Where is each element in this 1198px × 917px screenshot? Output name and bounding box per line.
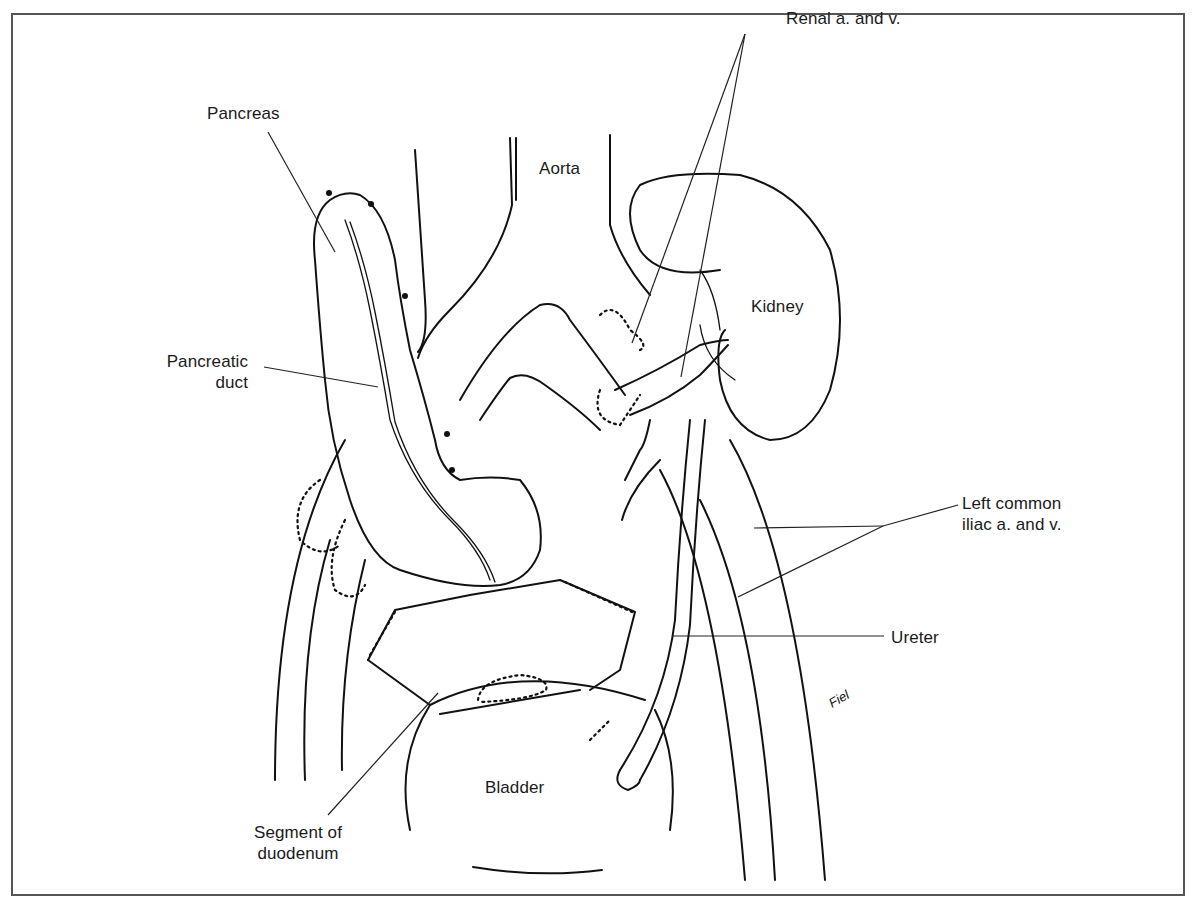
leader-pancreatic-duct [264,367,378,387]
label-left-common-iliac-line2: iliac a. and v. [962,514,1061,535]
label-kidney: Kidney [751,296,804,317]
label-renal: Renal a. and v. [786,8,901,29]
label-segment-of-duodenum-line2: duodenum [238,843,358,864]
label-pancreas: Pancreas [207,103,280,124]
bladder-drawing [406,675,673,873]
label-aorta: Aorta [539,158,580,179]
renal-vessel-drawing [460,304,625,430]
leader-renal [632,34,745,343]
leader-iliac-a [754,526,883,528]
label-left-common-iliac: Left common iliac a. and v. [962,493,1061,535]
artist-signature: Fiel [826,687,853,711]
label-pancreatic-duct: Pancreatic duct [140,351,248,393]
label-segment-of-duodenum: Segment of duodenum [238,822,358,864]
label-bladder: Bladder [485,777,544,798]
aorta-drawing [415,135,650,358]
label-left-common-iliac-line1: Left common [962,493,1061,514]
leader-duodenum [328,693,438,815]
label-pancreatic-duct-line1: Pancreatic [140,351,248,372]
ureter-drawing [617,420,705,790]
label-ureter: Ureter [891,627,939,648]
iliac-vessels-drawing [622,420,825,880]
leader-pancreas [268,132,335,252]
anatomical-illustration: Fiel [0,0,1198,917]
label-pancreatic-duct-line2: duct [140,372,248,393]
pancreas-drawing [314,190,541,586]
leader-iliac-v [738,526,883,597]
leader-renal-2 [681,34,745,377]
left-vessels-drawing [275,440,365,780]
label-segment-of-duodenum-line1: Segment of [238,822,358,843]
leader-iliac [883,505,958,526]
